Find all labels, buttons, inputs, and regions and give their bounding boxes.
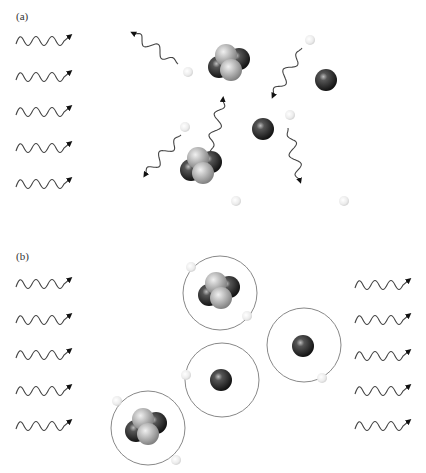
particle-layer <box>112 35 349 465</box>
panel-a-free-electron-icon <box>180 122 190 132</box>
panel-b-helium-nucleus-icon <box>125 408 167 445</box>
panel-a-incoming-photon-icon <box>16 107 70 117</box>
panel-a-free-electron-icon <box>183 67 193 77</box>
panel-a-free-electron-icon <box>231 196 241 206</box>
panel-b-outgoing-photon-icon <box>355 315 409 325</box>
panel-a-free-electron-icon <box>285 110 295 120</box>
panel-b-incoming-photon-icon <box>16 350 70 360</box>
panel-b-bound-electron-icon <box>171 455 181 465</box>
wave-layer <box>16 36 409 431</box>
panel-a-scattered-photon-icon <box>209 99 225 152</box>
panel-a-hydrogen-nucleus-icon <box>252 118 274 140</box>
panel-b-bound-electron-icon <box>186 262 196 272</box>
panel-a-scattered-photon-icon <box>145 135 181 175</box>
panel-b-helium-nucleus-icon <box>198 272 240 309</box>
proton <box>220 59 242 81</box>
panel-a-free-electron-icon <box>339 196 349 206</box>
panel-a-scattered-photon-icon <box>273 48 302 96</box>
panel-a-incoming-photon-icon <box>16 179 70 189</box>
panel-b-outgoing-photon-icon <box>355 351 409 361</box>
panel-b-hydrogen-nucleus-icon <box>210 369 232 391</box>
panel-a-incoming-photon-icon <box>16 72 70 82</box>
proton <box>210 287 232 309</box>
diagram-canvas <box>0 0 426 473</box>
panel-b-bound-electron-icon <box>242 311 252 321</box>
panel-b-incoming-photon-icon <box>16 279 70 289</box>
panel-a-free-electron-icon <box>305 35 315 45</box>
panel-a-incoming-photon-icon <box>16 143 70 153</box>
panel-b-outgoing-photon-icon <box>355 421 409 431</box>
panel-a-helium-nucleus-icon <box>208 44 250 81</box>
panel-a-hydrogen-nucleus-icon <box>315 69 337 91</box>
proton <box>137 423 159 445</box>
panel-b-outgoing-photon-icon <box>355 386 409 396</box>
panel-b-bound-electron-icon <box>317 373 327 383</box>
panel-b-incoming-photon-icon <box>16 386 70 396</box>
panel-b-incoming-photon-icon <box>16 421 70 431</box>
proton <box>192 162 214 184</box>
panel-b-bound-electron-icon <box>181 370 191 380</box>
panel-b-bound-electron-icon <box>112 396 122 406</box>
panel-b-incoming-photon-icon <box>16 315 70 325</box>
panel-b-hydrogen-nucleus-icon <box>292 335 314 357</box>
panel-a-scattered-photon-icon <box>133 33 178 64</box>
panel-a-scattered-photon-icon <box>287 128 301 181</box>
panel-a-helium-nucleus-icon <box>180 147 222 184</box>
panel-a-incoming-photon-icon <box>16 36 70 46</box>
panel-b-outgoing-photon-icon <box>355 280 409 290</box>
